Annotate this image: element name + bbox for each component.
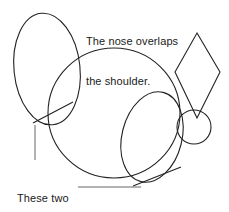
sketch-canvas: The nose overlaps the shoulder. These tw… <box>0 0 229 212</box>
lower-parallel-chord <box>133 167 181 186</box>
note-line: the shoulder. <box>86 75 178 88</box>
upper-parallel-chord <box>33 102 73 123</box>
nose-overlaps-shoulder-note: The nose overlaps the shoulder. <box>86 9 178 115</box>
left-ellipse-head <box>8 10 85 128</box>
parallel-lines-note: These two lines are parallel. <box>17 166 69 212</box>
note-line: These two <box>17 192 69 205</box>
diamond-shape <box>175 33 220 118</box>
note-line: The nose overlaps <box>86 35 178 48</box>
small-circle-nose <box>177 110 211 144</box>
